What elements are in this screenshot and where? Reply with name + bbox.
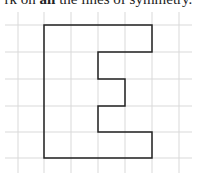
square-grid (5, 12, 192, 173)
grid-canvas (0, 0, 197, 173)
